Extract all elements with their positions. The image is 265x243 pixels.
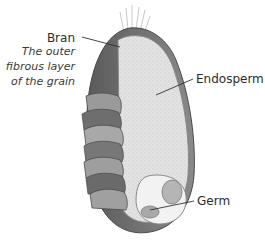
germ-region — [136, 175, 186, 224]
bran-description-line-2: fibrous layer — [6, 59, 75, 74]
germ-label: Germ — [197, 194, 230, 209]
wheat-kernel-diagram: Bran The outer fibrous layer of the grai… — [0, 0, 265, 243]
bran-description-line-3: of the grain — [6, 74, 75, 89]
endosperm-label: Endosperm — [196, 72, 264, 87]
bran-description-line-1: The outer — [6, 44, 75, 59]
bran-layers — [82, 93, 127, 210]
bran-description: The outer fibrous layer of the grain — [6, 44, 75, 89]
